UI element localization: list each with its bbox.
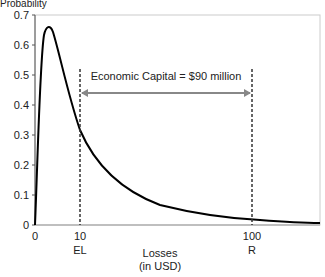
svg-text:100: 100 — [243, 230, 261, 242]
svg-text:(in USD): (in USD) — [139, 260, 181, 272]
x-axis-label: Losses (in USD) — [139, 247, 181, 272]
economic-capital-label: Economic Capital = $90 million — [91, 70, 242, 82]
svg-text:EL: EL — [73, 244, 86, 256]
svg-text:0: 0 — [23, 219, 29, 231]
svg-text:0.5: 0.5 — [14, 69, 29, 81]
svg-text:0.6: 0.6 — [14, 39, 29, 51]
loss-distribution-curve — [35, 27, 320, 225]
y-ticks: 0 0.1 0.2 0.3 0.4 0.5 0.6 0.7 — [14, 9, 35, 231]
svg-text:0: 0 — [32, 230, 38, 242]
svg-text:R: R — [248, 244, 256, 256]
svg-text:0.7: 0.7 — [14, 9, 29, 21]
svg-text:0.4: 0.4 — [14, 99, 29, 111]
svg-text:10: 10 — [74, 230, 86, 242]
svg-text:Losses: Losses — [143, 247, 178, 259]
svg-text:0.2: 0.2 — [14, 159, 29, 171]
y-axis-label: Probability — [0, 0, 47, 9]
chart: Probability 0 0.1 0.2 0.3 0.4 0.5 0.6 0.… — [0, 0, 325, 277]
svg-text:0.3: 0.3 — [14, 129, 29, 141]
economic-capital-arrow — [81, 89, 251, 97]
svg-text:0.1: 0.1 — [14, 189, 29, 201]
